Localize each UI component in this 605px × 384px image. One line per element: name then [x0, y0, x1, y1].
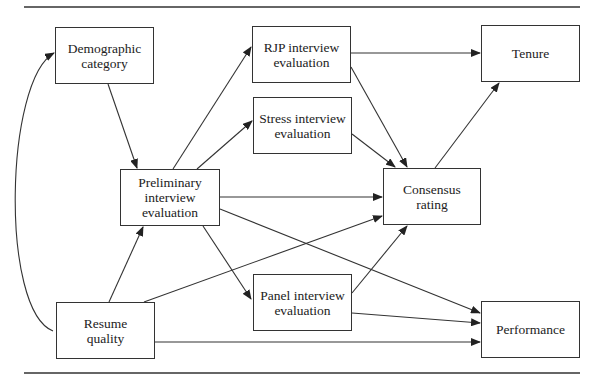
- node-demographic-category: Demographic category: [55, 27, 154, 84]
- node-panel-interview-evaluation: Panel interview evaluation: [253, 274, 352, 331]
- edge-stress-consensus: [352, 134, 395, 167]
- edge-preliminary-panel: [203, 226, 251, 299]
- node-resume-quality: Resume quality: [56, 302, 155, 359]
- edge-consensus-tenure: [435, 83, 499, 168]
- edge-resume-demographic: [15, 53, 54, 331]
- edge-preliminary-rjp: [173, 47, 251, 169]
- edge-rjp-consensus: [351, 67, 407, 167]
- edge-panel-consensus: [352, 226, 407, 293]
- node-rjp-interview-evaluation: RJP interview evaluation: [252, 26, 351, 83]
- node-stress-interview-evaluation: Stress interview evaluation: [253, 97, 352, 154]
- node-consensus-rating: Consensus rating: [383, 168, 481, 225]
- node-preliminary-interview-evaluation: Preliminary interview evaluation: [120, 169, 220, 226]
- edge-demographic-preliminary: [108, 84, 137, 168]
- edge-preliminary-stress: [197, 121, 252, 169]
- node-tenure: Tenure: [481, 25, 580, 82]
- node-performance: Performance: [481, 301, 580, 358]
- edge-panel-performance: [352, 313, 480, 323]
- edge-resume-preliminary: [109, 227, 143, 302]
